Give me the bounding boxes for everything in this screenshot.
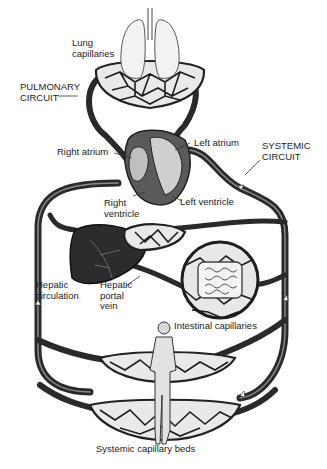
label-right-ventricle: Right ventricle bbox=[104, 198, 139, 219]
circulatory-diagram bbox=[0, 0, 327, 469]
intestinal-capillary-bed bbox=[182, 242, 258, 318]
label-intestinal-capillaries: Intestinal capillaries bbox=[174, 321, 257, 332]
label-pulmonary-circuit: PULMONARY CIRCUIT bbox=[20, 82, 80, 103]
label-left-ventricle: Left ventricle bbox=[180, 197, 234, 208]
systemic-capillary-beds bbox=[90, 322, 240, 444]
label-left-atrium: Left atrium bbox=[194, 138, 239, 149]
label-hepatic-circulation: Hepatic circulation bbox=[36, 280, 79, 301]
label-lung-capillaries: Lung capillaries bbox=[72, 38, 114, 59]
liver bbox=[70, 224, 185, 283]
label-systemic-circuit: SYSTEMIC CIRCUIT bbox=[262, 141, 311, 162]
heart bbox=[125, 130, 190, 205]
label-right-atrium: Right atrium bbox=[57, 147, 108, 158]
label-systemic-capillary-beds: Systemic capillary beds bbox=[96, 444, 195, 455]
label-hepatic-portal-vein: Hepatic portal vein bbox=[100, 280, 132, 312]
arrow-icon bbox=[240, 391, 245, 397]
